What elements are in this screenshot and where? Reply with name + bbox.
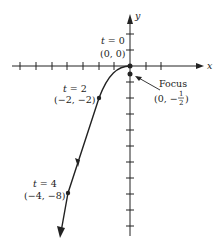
label-focus-point-prefix: (0, − (154, 93, 178, 104)
focus-pointer-arrow-icon (135, 76, 142, 81)
label-t0-rest: = 0 (105, 35, 125, 46)
label-focus-frac-num: 1 (179, 90, 183, 98)
label-t2-param: t = 2 (63, 83, 87, 94)
x-axis-arrow-icon (196, 63, 204, 69)
parametric-curve-diagram: x y t = 0 (0, 0) t = 2 (−2, −2) t = 4 (−… (0, 0, 216, 246)
point-focus (128, 72, 133, 77)
point-t0 (128, 64, 133, 69)
y-axis (126, 22, 134, 236)
label-t4-point: (−4, −8) (24, 190, 65, 201)
label-focus-frac-den: 2 (179, 99, 183, 107)
label-focus: Focus (159, 78, 187, 89)
y-axis-label: y (134, 10, 141, 21)
x-axis-label: x (207, 60, 213, 71)
label-t0-param: t = 0 (101, 35, 125, 46)
y-axis-arrow-icon (127, 14, 133, 24)
label-t0-point: (0, 0) (100, 48, 126, 59)
point-t4 (66, 191, 70, 195)
x-axis (12, 62, 196, 70)
curve-end-arrow-icon (57, 226, 65, 238)
label-t2-point: (−2, −2) (54, 94, 95, 105)
point-t2 (97, 96, 101, 100)
label-t4-param: t = 4 (33, 178, 57, 189)
label-focus-point-suffix: ) (185, 93, 189, 104)
